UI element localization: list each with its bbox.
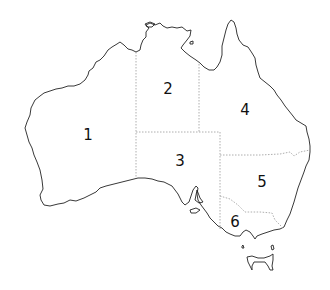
region-label-5: 5 xyxy=(257,175,267,190)
flinders-island xyxy=(271,245,274,250)
border-qld-nsw xyxy=(220,150,310,156)
region-label-3: 3 xyxy=(175,154,185,169)
region-label-1: 1 xyxy=(83,128,93,143)
groote-eylandt xyxy=(190,41,193,44)
region-label-2: 2 xyxy=(163,82,173,97)
region-label-6: 6 xyxy=(230,215,240,230)
king-island xyxy=(242,245,244,248)
tasmania xyxy=(247,254,273,270)
mainland-coastline xyxy=(25,20,310,239)
australia-map xyxy=(0,0,330,290)
region-label-4: 4 xyxy=(240,103,250,118)
kangaroo-island xyxy=(190,208,200,213)
